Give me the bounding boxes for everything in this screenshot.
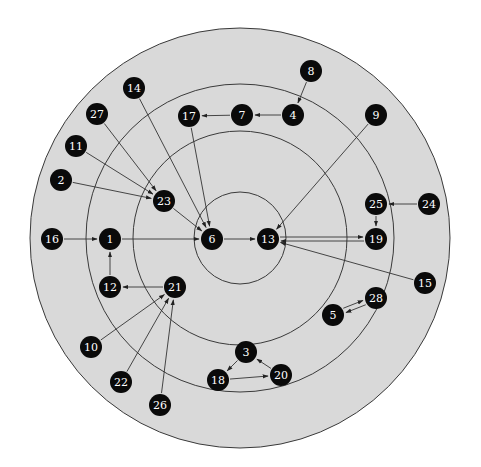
node-label: 12 [103,281,117,294]
node-label: 6 [209,233,216,246]
node-label: 10 [84,341,98,354]
node-label: 8 [308,65,315,78]
node-label: 5 [330,309,337,322]
node-26[interactable]: 26 [149,394,171,416]
node-label: 19 [369,233,383,246]
graph-diagram: 1234567891011121314151617181920212223242… [0,0,481,467]
edge-7-to-17 [202,115,230,116]
node-5[interactable]: 5 [322,304,344,326]
node-6[interactable]: 6 [201,228,223,250]
node-label: 24 [422,198,436,211]
node-28[interactable]: 28 [365,287,387,309]
node-label: 28 [369,292,383,305]
node-25[interactable]: 25 [365,193,387,215]
node-19[interactable]: 19 [365,228,387,250]
node-label: 25 [369,198,383,211]
node-1[interactable]: 1 [99,228,121,250]
node-18[interactable]: 18 [207,369,229,391]
node-12[interactable]: 12 [99,276,121,298]
node-label: 27 [90,108,104,121]
node-2[interactable]: 2 [50,169,72,191]
node-label: 9 [373,109,380,122]
node-label: 22 [114,376,128,389]
node-7[interactable]: 7 [231,104,253,126]
node-label: 18 [211,374,225,387]
node-label: 11 [69,140,83,153]
node-23[interactable]: 23 [153,190,175,212]
node-label: 4 [290,109,297,122]
node-label: 26 [153,399,167,412]
concentric-rings [30,28,450,448]
node-17[interactable]: 17 [178,105,200,127]
node-label: 2 [58,174,65,187]
node-3[interactable]: 3 [235,341,257,363]
node-8[interactable]: 8 [300,60,322,82]
node-label: 23 [157,195,171,208]
node-label: 14 [127,82,141,95]
node-11[interactable]: 11 [65,135,87,157]
node-13[interactable]: 13 [257,228,279,250]
node-4[interactable]: 4 [282,104,304,126]
node-16[interactable]: 16 [41,228,63,250]
node-20[interactable]: 20 [270,364,292,386]
node-label: 7 [239,109,246,122]
node-label: 21 [168,281,182,294]
node-label: 16 [45,233,59,246]
node-label: 3 [243,346,250,359]
node-14[interactable]: 14 [123,77,145,99]
node-label: 20 [274,369,288,382]
node-label: 1 [107,233,114,246]
node-label: 17 [182,110,196,123]
node-9[interactable]: 9 [365,104,387,126]
node-label: 15 [418,277,432,290]
node-label: 13 [261,233,275,246]
node-22[interactable]: 22 [110,371,132,393]
node-15[interactable]: 15 [414,272,436,294]
ring-outer [30,28,450,448]
node-27[interactable]: 27 [86,103,108,125]
node-21[interactable]: 21 [164,276,186,298]
diagram-canvas: 1234567891011121314151617181920212223242… [0,0,481,467]
node-10[interactable]: 10 [80,336,102,358]
node-24[interactable]: 24 [418,193,440,215]
